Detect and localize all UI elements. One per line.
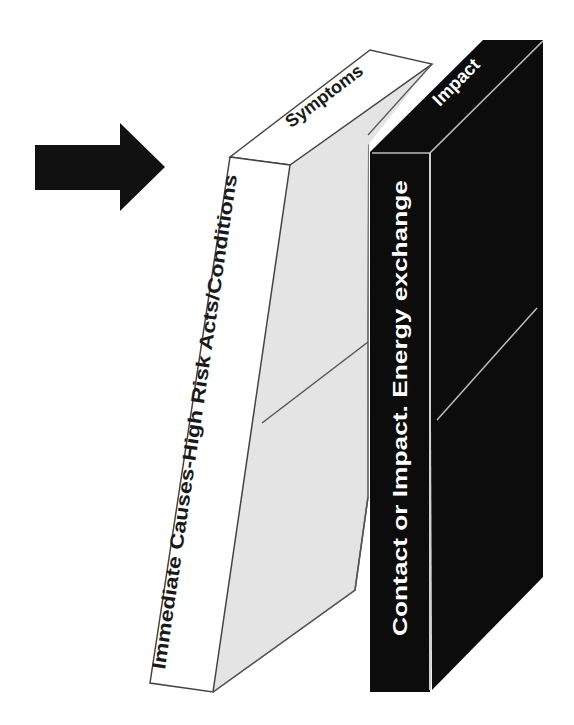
black-block-spine-label: Contact or Impact. Energy exchange: [388, 180, 411, 636]
domino-diagram: Immediate Causes-High Risk Acts/Conditio…: [0, 0, 574, 725]
contact-impact-block: Contact or Impact. Energy exchange Impac…: [370, 40, 543, 692]
right-arrow-icon: [35, 123, 165, 211]
